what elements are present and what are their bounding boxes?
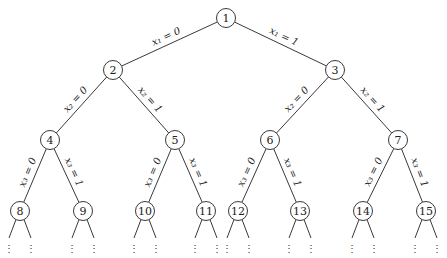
continuation-dots: ⋮: [212, 243, 222, 254]
edge-label: x₃ = 0: [16, 155, 38, 188]
node-label: 4: [47, 134, 54, 147]
continuation-dots: ⋮: [222, 243, 232, 254]
node-label: 13: [293, 205, 307, 218]
continuation-edge: [210, 220, 217, 239]
continuation-edge: [415, 220, 422, 239]
edge-label: x₃ = 1: [187, 156, 209, 189]
continuation-edge: [242, 220, 249, 239]
edge-label: x₃ = 0: [235, 155, 258, 188]
edge-label: x₃ = 1: [282, 156, 304, 189]
node-label: 10: [138, 205, 152, 218]
continuation-edge: [134, 220, 141, 239]
edge-label: x₂ = 1: [358, 84, 387, 114]
node-label: 12: [231, 205, 245, 218]
continuation-dots: ⋮: [306, 243, 316, 254]
continuation-edge: [72, 220, 79, 239]
continuation-dots: ⋮: [284, 243, 294, 254]
continuation-dots: ⋮: [410, 243, 420, 254]
tree-node-9: 9: [74, 202, 93, 221]
tree-node-3: 3: [326, 61, 345, 80]
edge-label: x₂ = 0: [282, 84, 311, 114]
node-label: 1: [223, 12, 230, 25]
node-label: 7: [395, 134, 402, 147]
decision-tree-diagram: x₁ = 0x₁ = 1x₂ = 0x₂ = 1x₂ = 0x₂ = 1x₃ =…: [0, 0, 447, 258]
tree-node-1: 1: [217, 9, 236, 28]
continuation-dots: ⋮: [151, 243, 161, 254]
tree-node-10: 10: [136, 202, 155, 221]
tree-node-13: 13: [291, 202, 310, 221]
tree-node-14: 14: [354, 202, 373, 221]
node-label: 14: [356, 205, 370, 218]
continuation-edge: [289, 220, 296, 239]
continuation-dots: ⋮: [129, 243, 139, 254]
edge-label: x₃ = 0: [141, 155, 163, 188]
nodes-layer: 123456789101112131415: [11, 9, 436, 221]
tree-node-4: 4: [41, 131, 60, 150]
continuation-edge: [195, 220, 202, 239]
node-label: 15: [419, 205, 433, 218]
node-label: 5: [172, 134, 179, 147]
tree-node-12: 12: [229, 202, 248, 221]
continuation-dots: ⋮: [347, 243, 357, 254]
edge-label: x₃ = 1: [63, 156, 86, 189]
continuation-layer: ⋮⋮⋮⋮⋮⋮⋮⋮⋮⋮⋮⋮⋮⋮⋮⋮: [4, 220, 442, 255]
continuation-edge: [87, 220, 94, 239]
continuation-dots: ⋮: [4, 243, 14, 254]
continuation-edge: [304, 220, 311, 239]
node-label: 8: [17, 205, 24, 218]
edge-label: x₃ = 1: [409, 156, 431, 189]
continuation-dots: ⋮: [67, 243, 77, 254]
node-label: 11: [199, 205, 213, 218]
tree-node-2: 2: [104, 61, 123, 80]
node-label: 3: [332, 64, 339, 77]
tree-node-11: 11: [197, 202, 216, 221]
continuation-dots: ⋮: [432, 243, 442, 254]
edge-label: x₂ = 1: [136, 84, 165, 114]
continuation-dots: ⋮: [369, 243, 379, 254]
continuation-edge: [430, 220, 437, 239]
continuation-edge: [24, 220, 31, 239]
edge-label: x₁ = 1: [268, 25, 300, 48]
edge-label: x₃ = 0: [361, 155, 385, 188]
tree-node-6: 6: [261, 131, 280, 150]
continuation-edge: [227, 220, 234, 239]
edges-layer: [24, 22, 423, 203]
edge-label: x₁ = 0: [150, 25, 183, 48]
continuation-dots: ⋮: [26, 243, 36, 254]
tree-node-5: 5: [166, 131, 185, 150]
continuation-edge: [9, 220, 16, 239]
continuation-dots: ⋮: [190, 243, 200, 254]
continuation-edge: [367, 220, 374, 239]
tree-node-8: 8: [11, 202, 30, 221]
continuation-dots: ⋮: [244, 243, 254, 254]
node-label: 6: [267, 134, 274, 147]
tree-node-15: 15: [417, 202, 436, 221]
edge-label: x₂ = 0: [61, 84, 90, 115]
continuation-dots: ⋮: [89, 243, 99, 254]
continuation-edge: [352, 220, 359, 239]
node-label: 9: [80, 205, 87, 218]
tree-node-7: 7: [389, 131, 408, 150]
node-label: 2: [110, 64, 117, 77]
continuation-edge: [149, 220, 156, 239]
